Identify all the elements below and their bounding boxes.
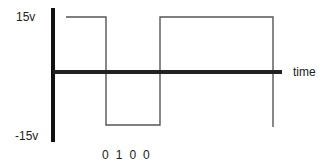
bit-label: 0 [102,148,109,162]
x-axis-label: time [293,66,316,78]
bit-label: 1 [116,148,123,162]
y-axis-bottom-label: -15v [15,130,38,142]
bit-label: 0 [143,148,150,162]
bit-label: 0 [129,148,136,162]
bit-labels: 0 1 0 0 [102,148,150,162]
square-wave-diagram [0,0,333,168]
y-axis-top-label: 15v [16,11,35,23]
